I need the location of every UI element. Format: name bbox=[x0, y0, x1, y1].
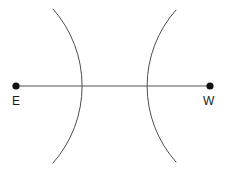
point-label-W: W bbox=[203, 95, 214, 107]
construction-canvas bbox=[0, 0, 231, 173]
endpoint-dot-W bbox=[206, 82, 213, 89]
endpoint-dot-E bbox=[12, 82, 19, 89]
geometric-construction-figure: E W bbox=[0, 0, 231, 173]
point-label-E: E bbox=[12, 95, 20, 107]
